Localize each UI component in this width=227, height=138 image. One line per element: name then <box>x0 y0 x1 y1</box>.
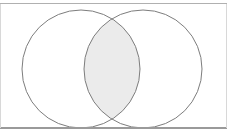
venn-diagram-figure <box>0 0 227 138</box>
venn-diagram-canvas <box>0 0 227 138</box>
